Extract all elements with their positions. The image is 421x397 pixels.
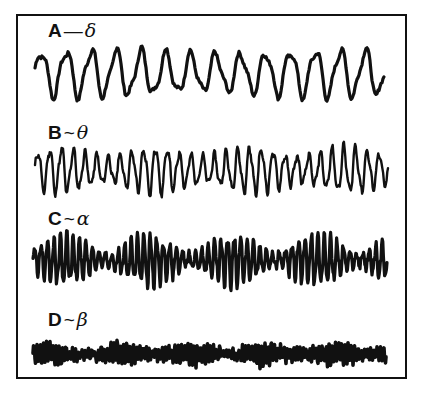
waveform-delta: [35, 46, 384, 101]
waveform-beta: [33, 340, 386, 368]
waveform-theta: [35, 142, 388, 198]
waveforms: [0, 0, 421, 397]
waveform-alpha: [33, 231, 387, 291]
